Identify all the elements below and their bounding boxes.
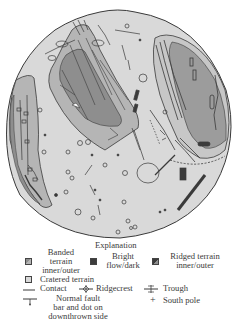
trough-symbol-icon bbox=[143, 284, 159, 294]
bright-flow-swatch bbox=[90, 258, 97, 265]
label-line: downthrown side bbox=[38, 312, 118, 321]
legend: Explanation Banded terrain inner/outer B… bbox=[0, 238, 238, 333]
ridgecrest-label: Ridgecrest bbox=[96, 284, 133, 293]
normal-fault-label: Normal fault bar and dot on downthrown s… bbox=[38, 294, 118, 322]
legend-title: Explanation bbox=[95, 241, 137, 250]
banded-terrain-label: Banded terrain inner/outer bbox=[38, 248, 84, 276]
trough-label: Trough bbox=[163, 284, 188, 293]
ridged-terrain-swatch bbox=[152, 258, 159, 265]
label-line: inner/outer bbox=[162, 261, 228, 270]
cratered-terrain-swatch bbox=[25, 276, 32, 283]
south-pole-label: South pole bbox=[163, 296, 200, 305]
bright-flow-label: Bright flow/dark bbox=[100, 252, 146, 270]
banded-terrain-swatch bbox=[25, 258, 32, 265]
geologic-map bbox=[0, 0, 238, 240]
contact-label: Contact bbox=[40, 284, 67, 293]
contact-symbol-icon bbox=[22, 287, 36, 293]
south-pole-symbol-icon: + bbox=[150, 295, 156, 304]
label-line: flow/dark bbox=[100, 261, 146, 270]
ridged-terrain-label: Ridged terrain inner/outer bbox=[162, 252, 228, 270]
normal-fault-symbol-icon bbox=[22, 296, 38, 306]
